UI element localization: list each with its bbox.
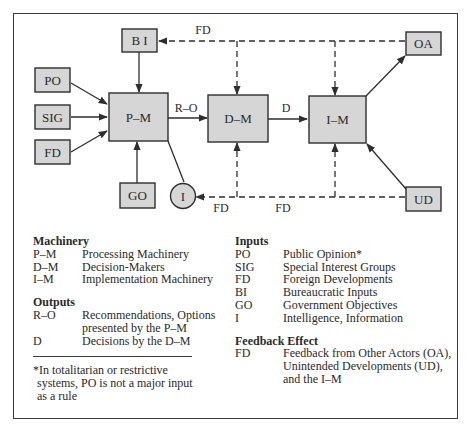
- node-ud: UD: [406, 187, 441, 211]
- legend-machinery-title: Machinery: [33, 235, 215, 248]
- svg-text:I–M: I–M: [326, 112, 349, 127]
- legend-code: PO: [235, 248, 283, 261]
- legend-desc: Government Objectives: [283, 299, 397, 312]
- node-im: I–M: [309, 96, 366, 143]
- svg-text:I: I: [181, 189, 185, 204]
- legend-row: PO Public Opinion*: [235, 248, 451, 261]
- legend-desc: Recommendations, Options: [82, 309, 215, 322]
- legend-code: P–M: [33, 248, 82, 261]
- edge-po-to-pm: [71, 83, 107, 104]
- legend-row: GO Government Objectives: [235, 299, 451, 312]
- legend-code: I: [235, 312, 283, 325]
- svg-text:D–M: D–M: [224, 111, 252, 126]
- legend-right: Inputs PO Public Opinion* SIG Special In…: [235, 235, 451, 386]
- legend-desc: and the I–M: [283, 373, 342, 386]
- node-oa: OA: [406, 32, 441, 55]
- legend-row: D Decisions by the D–M: [33, 335, 215, 348]
- legend-desc: Public Opinion*: [283, 248, 362, 261]
- legend-row: I–M Implementation Machinery: [33, 273, 215, 286]
- legend-desc: Implementation Machinery: [82, 273, 213, 286]
- edge-fd-to-pm: [71, 131, 107, 152]
- node-i: I: [171, 184, 196, 209]
- legend-inputs-title: Inputs: [235, 235, 451, 248]
- edge-im-to-oa: [366, 56, 405, 96]
- node-go: GO: [120, 183, 155, 208]
- footnote-divider: [33, 356, 192, 357]
- label-fd-bottom-right: FD: [275, 201, 291, 215]
- legend-code: R–O: [33, 309, 82, 322]
- legend-code: GO: [235, 299, 283, 312]
- label-d: D: [282, 101, 291, 115]
- node-fd: FD: [35, 140, 70, 164]
- node-bi: B I: [122, 29, 157, 52]
- svg-text:PO: PO: [44, 73, 61, 88]
- svg-text:SIG: SIG: [42, 110, 63, 125]
- node-pm: P–M: [109, 93, 168, 141]
- svg-text:UD: UD: [414, 192, 433, 207]
- legend-row-cont: presented by the P–M: [33, 322, 215, 335]
- legend-desc: Processing Machinery: [82, 248, 189, 261]
- legend-code: FD: [235, 347, 283, 360]
- legend-row: P–M Processing Machinery: [33, 248, 215, 261]
- legend-desc: presented by the P–M: [82, 322, 187, 335]
- legend-desc: Intelligence, Information: [283, 312, 403, 325]
- footnote-line: as a rule: [33, 390, 203, 403]
- svg-text:B I: B I: [131, 33, 147, 48]
- footnote: *In totalitarian or restrictive systems,…: [33, 364, 203, 403]
- svg-text:GO: GO: [128, 188, 147, 203]
- edge-pm-to-i: [168, 141, 184, 182]
- legend-code: D: [33, 335, 82, 348]
- legend-row-cont: Unintended Developments (UD),: [235, 360, 451, 373]
- svg-text:OA: OA: [414, 36, 433, 51]
- node-dm: D–M: [208, 95, 268, 142]
- label-fd-top: FD: [195, 23, 211, 37]
- node-sig: SIG: [35, 105, 70, 129]
- legend-row: R–O Recommendations, Options: [33, 309, 215, 322]
- legend-row-cont: and the I–M: [235, 373, 451, 386]
- legend-row: I Intelligence, Information: [235, 312, 451, 325]
- legend-code: I–M: [33, 273, 82, 286]
- label-fd-bottom-left: FD: [213, 201, 229, 215]
- label-ro: R–O: [175, 101, 198, 115]
- edge-ud-to-im: [367, 144, 406, 189]
- node-po: PO: [35, 68, 70, 92]
- svg-text:P–M: P–M: [126, 110, 152, 125]
- legend-desc: Decisions by the D–M: [82, 335, 190, 348]
- svg-text:FD: FD: [44, 145, 61, 160]
- legend-left: Machinery P–M Processing Machinery D–M D…: [33, 235, 215, 347]
